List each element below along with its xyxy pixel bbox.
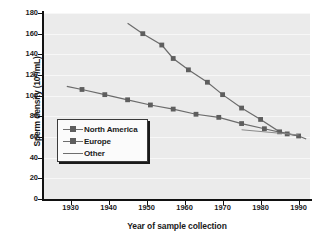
y-tick-mark [38,34,42,35]
y-tick-mark [38,199,42,200]
y-tick-label: 180 [14,8,38,17]
y-tick-label: 80 [14,111,38,120]
series-line [128,23,307,139]
x-tick-mark [185,201,186,205]
data-point-marker [258,117,263,122]
series-europe [128,23,307,139]
data-point-marker [194,112,199,117]
y-tick-label: 120 [14,70,38,79]
y-tick-mark [38,137,42,138]
data-point-marker [148,103,153,108]
y-tick-mark [38,13,42,14]
x-tick-mark [147,201,148,205]
data-point-marker [171,107,176,112]
data-point-marker [171,56,176,61]
y-tick-mark [38,158,42,159]
data-point-marker [125,97,130,102]
data-point-marker [239,121,244,126]
legend-item-europe[interactable]: Europe [62,135,147,147]
x-axis-title: Year of sample collection [44,221,310,231]
legend-box: North AmericaEuropeOther [57,119,148,162]
data-point-marker [239,106,244,111]
data-point-marker [140,31,145,36]
legend-item-label: Other [84,149,105,158]
y-tick-mark [38,75,42,76]
legend-item-north-america[interactable]: North America [62,123,147,135]
legend-item-other[interactable]: Other [62,147,147,159]
legend-key-icon [62,148,84,158]
legend-key-icon [62,136,84,146]
y-tick-mark [38,96,42,97]
data-point-marker [80,87,85,92]
y-tick-mark [38,178,42,179]
data-point-marker [102,92,107,97]
x-axis-line [42,199,312,201]
legend-item-label: North America [84,125,138,134]
data-point-marker [186,67,191,72]
legend-key-icon [62,124,84,134]
y-tick-label: 60 [14,132,38,141]
data-point-marker [205,80,210,85]
series-layer [44,13,310,199]
data-point-marker [262,126,267,131]
y-tick-mark [38,116,42,117]
y-tick-label: 0 [14,194,38,203]
y-tick-mark [38,54,42,55]
y-tick-label: 140 [14,49,38,58]
x-tick-mark [109,201,110,205]
x-tick-mark [223,201,224,205]
x-tick-mark [71,201,72,205]
y-tick-label: 20 [14,173,38,182]
y-tick-label: 40 [14,153,38,162]
chart-figure: Sperm density (106/mL) 02040608010012014… [0,0,317,239]
legend-item-label: Europe [84,137,111,146]
x-tick-mark [261,201,262,205]
y-tick-label: 160 [14,29,38,38]
data-point-marker [216,115,221,120]
data-point-marker [220,92,225,97]
y-tick-label: 100 [14,91,38,100]
data-point-marker [159,43,164,48]
x-tick-mark [299,201,300,205]
